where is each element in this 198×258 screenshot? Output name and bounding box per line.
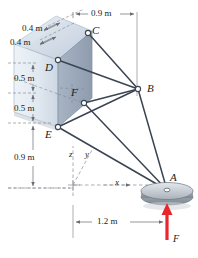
force-label-F: F: [173, 234, 179, 244]
node-F: [81, 100, 86, 105]
axis-label-y: y: [85, 150, 89, 159]
cable-support-figure: C D F E B A 0.9 m 0.4 m 0.4 m 0.5 m 0.5 …: [0, 0, 198, 258]
point-label-D: D: [45, 62, 53, 73]
node-C: [85, 30, 90, 35]
dimension-label-left-vertical-3: 0.9 m: [14, 153, 35, 162]
axis-label-x: x: [115, 178, 119, 187]
cable-E-A: [58, 127, 167, 190]
disc-anchor-A: [164, 188, 170, 192]
axis-label-z: z: [69, 150, 73, 159]
dimension-label-left-vertical-2: 0.5 m: [14, 104, 35, 113]
point-label-F: F: [71, 87, 78, 98]
dimension-label-top-horizontal: 0.9 m: [91, 9, 112, 18]
node-B: [135, 86, 140, 91]
dimension-label-bottom-horizontal: 1.2 m: [97, 217, 118, 226]
point-label-C: C: [92, 25, 99, 36]
point-label-A: A: [170, 172, 177, 183]
dimension-label-upper-diagonal-1: 0.4 m: [22, 24, 43, 33]
dimension-label-upper-diagonal-2: 0.4 m: [10, 38, 31, 47]
point-label-B: B: [147, 83, 154, 94]
node-E: [55, 124, 60, 129]
dimension-label-left-vertical-1: 0.5 m: [14, 74, 35, 83]
y-axis-line: [73, 150, 92, 185]
point-label-E: E: [45, 129, 52, 140]
node-D: [55, 57, 60, 62]
